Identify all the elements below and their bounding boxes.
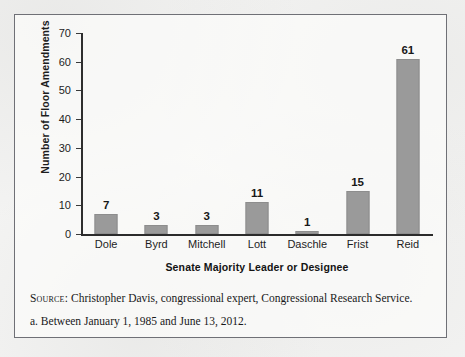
x-axis-category-label: Lott [232,238,282,250]
bar [296,231,319,234]
y-axis-tick-label: 0 [45,228,71,240]
bar-value-label: 3 [153,210,159,222]
x-axis-line [81,234,433,236]
y-axis-tick-label: 70 [45,27,71,39]
y-axis-tick-label: 50 [45,84,71,96]
bar [396,59,419,234]
x-axis-category-label: Daschle [282,238,332,250]
bar-group: 7 [81,33,131,234]
bar-group: 3 [182,33,232,234]
bar [346,191,369,234]
source-note-text: Christopher Davis, congressional expert,… [68,292,412,304]
bar [195,225,218,234]
bar-value-label: 3 [204,210,210,222]
x-axis-category-label: Mitchell [182,238,232,250]
x-axis-title: Senate Majority Leader or Designee [81,261,433,273]
bar-group: 11 [232,33,282,234]
y-axis-tick-label: 60 [45,56,71,68]
y-axis-tick-label: 30 [45,142,71,154]
bar-value-label: 61 [401,44,414,56]
bar-value-label: 7 [103,199,109,211]
source-note-label: Source: [30,292,68,304]
x-axis-category-label: Reid [383,238,433,250]
bar-group: 61 [383,33,433,234]
bar [95,214,118,234]
y-axis-tick-label: 40 [45,113,71,125]
y-axis-tick-labels: 010203040506070 [45,15,71,263]
x-axis-category-label: Byrd [131,238,181,250]
source-note: Source: Christopher Davis, congressional… [30,292,434,304]
bar [245,202,268,234]
bar-value-label: 1 [304,216,310,228]
bar-group: 15 [332,33,382,234]
bar-group: 1 [282,33,332,234]
figure-container: Number of Floor Amendments 0102030405060… [14,14,447,338]
bar-series: 7331111561 [81,33,433,234]
figure-notes: Source: Christopher Davis, congressional… [30,292,434,327]
bar-value-label: 15 [351,176,364,188]
x-axis-category-label: Dole [81,238,131,250]
x-axis-category-label: Frist [332,238,382,250]
footnote-a: a. Between January 1, 1985 and June 13, … [30,315,434,327]
y-axis-tick-label: 10 [45,199,71,211]
bar-group: 3 [131,33,181,234]
chart-plot-area: Number of Floor Amendments 0102030405060… [15,15,448,263]
bar [145,225,168,234]
x-axis-tick-labels: DoleByrdMitchellLottDaschleFristReid [81,238,433,258]
y-axis-tick-label: 20 [45,171,71,183]
bar-value-label: 11 [251,187,263,199]
